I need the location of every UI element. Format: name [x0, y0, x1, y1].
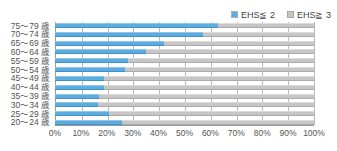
legend-swatch-gray-icon — [287, 11, 294, 18]
x-axis-tick-label: 30% — [124, 128, 141, 138]
chart-legend: EHS≦ 2 EHS≧ 3 — [231, 8, 331, 21]
x-axis-tick-label: 20% — [98, 128, 115, 138]
x-axis-tick-labels: 0%10%20%30%40%50%60%70%80%90%100% — [55, 128, 314, 142]
x-axis-tick-label: 10% — [72, 128, 89, 138]
bar-row[interactable] — [55, 111, 314, 116]
x-axis-tick-label: 100% — [303, 128, 325, 138]
legend-swatch-blue-icon — [231, 11, 238, 18]
bar-segment-ehs-high[interactable] — [104, 76, 314, 81]
bar-row[interactable] — [55, 41, 314, 46]
y-axis-label: 70～74 歳 — [0, 32, 53, 37]
y-axis-label: 75～79 歳 — [0, 23, 53, 28]
legend-item-ehs-low[interactable]: EHS≦ 2 — [231, 10, 275, 20]
bar-row[interactable] — [55, 32, 314, 37]
x-axis-tick-label: 40% — [150, 128, 167, 138]
bar-segment-ehs-high[interactable] — [125, 67, 314, 72]
bar-row[interactable] — [55, 67, 314, 72]
y-axis-label: 40～44 歳 — [0, 85, 53, 90]
bar-segment-ehs-low[interactable] — [55, 23, 218, 28]
bar-segment-ehs-high[interactable] — [203, 32, 314, 37]
legend-label-ehs-low: EHS≦ 2 — [241, 10, 275, 20]
bar-segment-ehs-high[interactable] — [218, 23, 314, 28]
bar-segment-ehs-high[interactable] — [122, 120, 314, 125]
x-axis-tick-label: 70% — [228, 128, 245, 138]
bar-segment-ehs-low[interactable] — [55, 111, 109, 116]
legend-label-ehs-high: EHS≧ 3 — [297, 10, 331, 20]
legend-item-ehs-high[interactable]: EHS≧ 3 — [287, 10, 331, 20]
x-axis-tick-label: 80% — [254, 128, 271, 138]
bar-segment-ehs-high[interactable] — [146, 49, 314, 54]
gridline — [314, 22, 315, 125]
bar-row[interactable] — [55, 76, 314, 81]
y-axis-label: 30～34 歳 — [0, 102, 53, 107]
bar-segment-ehs-high[interactable] — [109, 111, 314, 116]
bar-segment-ehs-high[interactable] — [98, 102, 314, 107]
x-axis-tick-label: 0% — [49, 128, 61, 138]
y-axis-label: 60～64 歳 — [0, 49, 53, 54]
bar-segment-ehs-low[interactable] — [55, 120, 122, 125]
y-axis-category-labels: 75～79 歳70～74 歳65～69 歳60～64 歳55～59 歳50～54… — [0, 22, 53, 126]
x-axis-tick-label: 50% — [176, 128, 193, 138]
bar-segment-ehs-low[interactable] — [55, 102, 98, 107]
bar-segment-ehs-high[interactable] — [128, 58, 314, 63]
y-axis-label: 55～59 歳 — [0, 58, 53, 63]
bar-segment-ehs-high[interactable] — [104, 85, 314, 90]
bar-segment-ehs-high[interactable] — [164, 41, 314, 46]
bar-row[interactable] — [55, 94, 314, 99]
stacked-bar-chart: EHS≦ 2 EHS≧ 3 75～79 歳70～74 歳65～69 歳60～64… — [0, 0, 337, 151]
bar-row[interactable] — [55, 23, 314, 28]
bar-row[interactable] — [55, 58, 314, 63]
bar-segment-ehs-low[interactable] — [55, 58, 128, 63]
bar-segment-ehs-low[interactable] — [55, 41, 164, 46]
bar-rows — [55, 22, 314, 126]
x-axis-tick-label: 90% — [280, 128, 297, 138]
y-axis-label: 45～49 歳 — [0, 76, 53, 81]
y-axis-label: 25～29 歳 — [0, 111, 53, 116]
y-axis-label: 50～54 歳 — [0, 67, 53, 72]
bar-row[interactable] — [55, 49, 314, 54]
bar-segment-ehs-low[interactable] — [55, 85, 104, 90]
bar-segment-ehs-low[interactable] — [55, 76, 104, 81]
y-axis-label: 20～24 歳 — [0, 120, 53, 125]
x-axis-tick-label: 60% — [202, 128, 219, 138]
bar-segment-ehs-low[interactable] — [55, 94, 99, 99]
bar-segment-ehs-high[interactable] — [99, 94, 314, 99]
bar-segment-ehs-low[interactable] — [55, 32, 203, 37]
y-axis-label: 35～39 歳 — [0, 94, 53, 99]
bar-segment-ehs-low[interactable] — [55, 67, 125, 72]
bar-row[interactable] — [55, 120, 314, 125]
bar-segment-ehs-low[interactable] — [55, 49, 146, 54]
bar-row[interactable] — [55, 85, 314, 90]
plot-area-wrapper — [55, 22, 314, 126]
y-axis-label: 65～69 歳 — [0, 41, 53, 46]
bar-row[interactable] — [55, 102, 314, 107]
